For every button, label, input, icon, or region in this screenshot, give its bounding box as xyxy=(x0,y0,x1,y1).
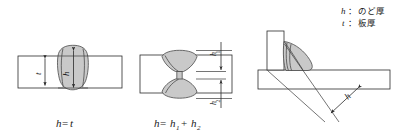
panel-2-caption: h = h 1 + h 2 xyxy=(154,117,201,132)
h2-dimension-subscript: 2 xyxy=(215,100,221,103)
panel-double-bevel-weld: h 1 h 2 h = h 1 + h 2 xyxy=(140,42,232,132)
weld-throat-diagram: h ： のど厚 t ： 板厚 t xyxy=(0,0,407,140)
legend-text-throat: のど厚 xyxy=(358,6,385,16)
legend-row-plate: t ： 板厚 xyxy=(342,18,376,28)
fillet-h-dimension-label: h xyxy=(343,91,353,102)
legend: h ： のど厚 t ： 板厚 xyxy=(341,6,385,28)
legend-separator-h: ： xyxy=(348,6,357,16)
h1-dimension-subscript: 1 xyxy=(215,51,221,54)
caption-equals: = xyxy=(160,117,166,129)
legend-text-plate: 板厚 xyxy=(358,18,376,28)
caption-h1-subscript: 1 xyxy=(176,124,180,132)
caption-equals: = xyxy=(62,117,68,129)
legend-row-throat: h ： のど厚 xyxy=(341,6,385,16)
panel-butt-weld-full-penetration: t h h = t xyxy=(18,45,122,129)
panel-1-caption: h = t xyxy=(56,117,74,129)
caption-h2-subscript: 2 xyxy=(197,124,201,132)
panel-fillet-weld: h xyxy=(258,31,390,122)
caption-plus: + xyxy=(181,117,187,129)
diagram-canvas: h ： のど厚 t ： 板厚 t xyxy=(0,0,407,140)
legend-symbol-h: h xyxy=(341,6,346,16)
legend-symbol-t: t xyxy=(342,18,345,28)
fillet-weld-bead xyxy=(283,42,312,71)
h-dimension-label: h xyxy=(61,71,71,76)
dimension-fillet-throat: h xyxy=(331,88,358,113)
caption-t: t xyxy=(70,117,74,129)
vertical-plate xyxy=(267,31,284,70)
legend-separator-t: ： xyxy=(348,18,357,28)
